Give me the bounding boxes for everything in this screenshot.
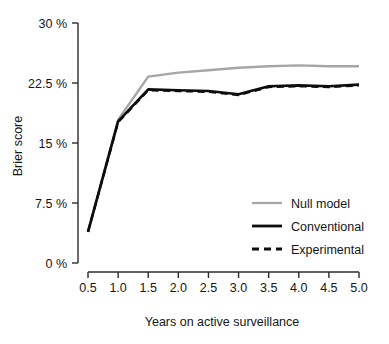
legend-label: Conventional [291,220,364,234]
x-tick-label-8: 4.5 [320,281,337,295]
brier-score-chart: 0 %7.5 %15 %22.5 %30 % Brier score 0.51.… [0,0,389,344]
chart-canvas: 0 %7.5 %15 %22.5 %30 % Brier score 0.51.… [0,0,389,344]
x-tick-label-2: 1.5 [140,281,157,295]
y-tick-label-3: 22.5 % [28,77,67,91]
y-tick-label-2: 15 % [39,137,68,151]
y-tick-label-1: 7.5 % [35,197,67,211]
y-axis-title: Brier score [11,116,25,176]
x-tick-label-5: 3.0 [230,281,247,295]
x-tick-label-6: 3.5 [260,281,277,295]
legend-label: Null model [291,197,350,211]
x-axis-title: Years on active surveillance [145,315,300,329]
x-tick-label-1: 1.0 [109,281,126,295]
y-tick-label-0: 0 % [45,257,67,271]
x-tick-label-3: 2.0 [170,281,187,295]
x-tick-label-0: 0.5 [79,281,96,295]
x-tick-label-9: 5.0 [350,281,367,295]
x-tick-label-7: 4.0 [290,281,307,295]
legend-label: Experimental [291,243,364,257]
x-tick-label-4: 2.5 [200,281,217,295]
y-tick-label-4: 30 % [39,17,68,31]
